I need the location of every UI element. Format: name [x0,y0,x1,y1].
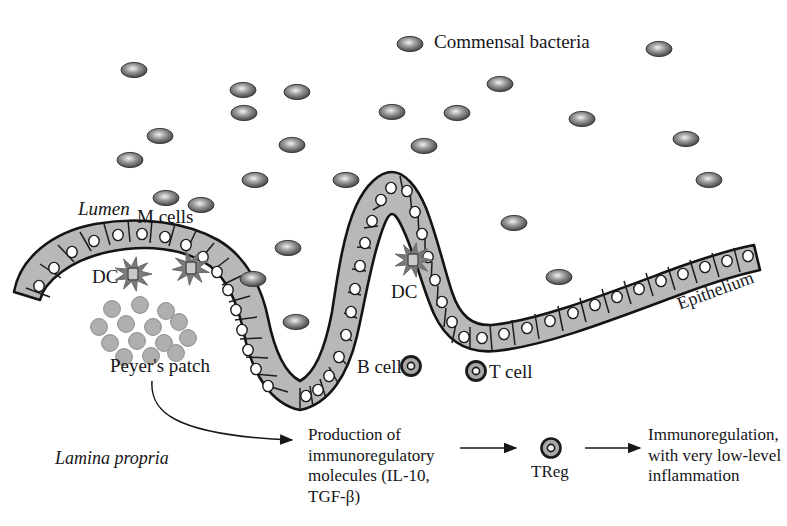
bacterium [117,152,143,167]
bacterium [696,172,722,187]
bacterium [275,240,301,255]
peyers-patch-cell [102,335,119,352]
peyers-patch-cell [91,319,108,336]
bacterium [673,131,699,146]
t-cell-icon [467,362,486,381]
dendritic-cell [115,257,152,291]
peyers-patch-cell [129,333,146,350]
dc-left-label: DC [92,266,118,288]
bacterium [444,105,470,120]
bacterium [242,172,268,187]
bacterium [230,82,256,97]
dc-center-label: DC [391,281,417,303]
bacterium [231,105,257,120]
bacterium [333,172,359,187]
peyers-patch-cell [132,297,149,314]
production-text-block: Production of immunoregulatory molecules… [308,425,458,508]
bacterium [487,76,513,91]
immunoregulation-text-block: Immunoregulation, with very low-level in… [648,425,787,487]
commensal-bacteria-label: Commensal bacteria [434,31,590,53]
bacterium [121,62,147,77]
figure-canvas: Lumen M cells Commensal bacteria DC DC P… [0,0,787,526]
bacterium [646,41,672,56]
treg-cell-icon [542,439,561,458]
peyers-patch-cell [171,314,188,331]
bacterium [147,128,173,143]
peyers-patch-cell [145,319,162,336]
bacterium [240,271,266,286]
bacterium [379,104,405,119]
bacterium [153,190,179,205]
bacterium [546,269,572,284]
bacterium [397,36,423,51]
peyers-patch-cell [104,301,121,318]
bacterium [283,314,309,329]
bacterium [284,84,310,99]
t-cell-label: T cell [489,361,532,383]
peyers-patch-cell [180,330,197,347]
treg-label: TReg [531,462,569,482]
lumen-label: Lumen [78,198,130,220]
bacterium [569,111,595,126]
peyers-patch-label: Peyer's patch [110,355,210,377]
legend-cell-icons [402,357,486,381]
bacterium [279,137,305,152]
lamina-propria-label: Lamina propria [55,448,169,469]
m-cells-label: M cells [137,206,193,228]
bacterium [411,138,437,153]
b-cell-icon [402,357,421,376]
bacterium [501,215,527,230]
peyers-patch-cell [118,316,135,333]
b-cell-label: B cell [357,356,402,378]
